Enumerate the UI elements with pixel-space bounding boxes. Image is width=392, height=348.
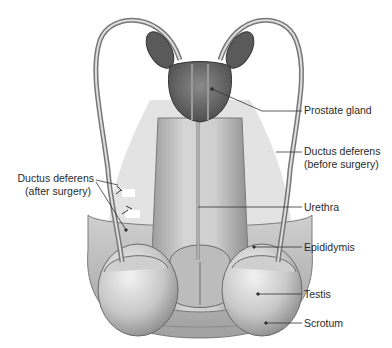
label-testis: Testis (304, 288, 331, 301)
right-testis (222, 244, 302, 336)
label-ductus-deferens-before-line2: (before surgery) (304, 158, 379, 171)
label-prostate-gland: Prostate gland (304, 104, 372, 117)
label-ductus-deferens-after-line2: (after surgery) (25, 185, 91, 198)
left-testis (98, 244, 178, 336)
label-urethra: Urethra (304, 201, 339, 214)
label-scrotum: Scrotum (304, 317, 343, 330)
anatomy-diagram: Prostate gland Ductus deferens (before s… (0, 0, 392, 348)
label-epididymis: Epididymis (304, 241, 355, 254)
label-ductus-deferens-before-line1: Ductus deferens (304, 145, 380, 158)
label-ductus-deferens-after-line1: Ductus deferens (18, 172, 94, 185)
